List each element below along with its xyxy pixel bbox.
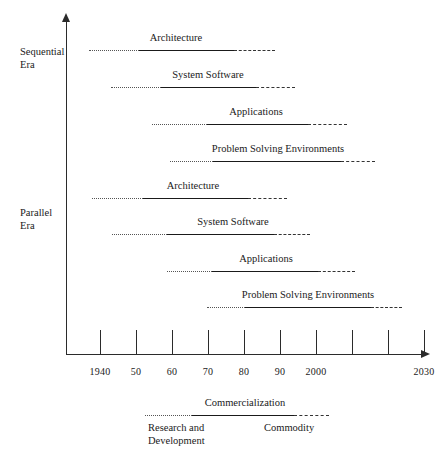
bar-segment-commodity xyxy=(248,198,287,199)
legend-caption-dotted: Research andDevelopment xyxy=(148,421,205,447)
timeline-bar: Problem Solving Environments xyxy=(0,143,444,169)
bar-label: Architecture xyxy=(150,32,202,43)
bar-segment-commercialization xyxy=(167,234,274,235)
x-axis-tick-label: 70 xyxy=(188,366,228,377)
bar-segment-research xyxy=(167,271,212,272)
bar-label: System Software xyxy=(172,69,243,80)
x-axis-tick-label: 2030 xyxy=(404,366,444,377)
bar-segment-commercialization xyxy=(143,198,248,199)
x-axis-tick-label: 50 xyxy=(116,366,156,377)
x-axis-tick xyxy=(280,330,281,355)
x-axis-arrow-icon xyxy=(421,350,430,358)
x-axis-tick xyxy=(136,330,137,355)
bar-segment-commercialization xyxy=(245,307,371,308)
bar-segment-research xyxy=(152,124,207,125)
x-axis-tick xyxy=(424,330,425,355)
bar-segment-research xyxy=(207,307,245,308)
bar-segment-commodity xyxy=(371,307,402,308)
timeline-bar: Applications xyxy=(0,106,444,132)
bar-segment-commodity xyxy=(308,124,347,125)
x-axis-line xyxy=(66,354,425,355)
bar-label: Applications xyxy=(239,253,293,264)
y-axis-arrow-icon xyxy=(62,13,70,22)
legend: CommercializationResearch andDevelopment… xyxy=(0,397,444,457)
timeline-bar: System Software xyxy=(0,69,444,95)
x-axis-tick xyxy=(388,330,389,355)
timeline-bar: Architecture xyxy=(0,32,444,58)
legend-segment-research xyxy=(145,415,192,416)
legend-title: Commercialization xyxy=(205,397,285,408)
bar-segment-research xyxy=(170,161,213,162)
bar-segment-research xyxy=(92,198,143,199)
x-axis-tick-label: 80 xyxy=(224,366,264,377)
bar-label: Problem Solving Environments xyxy=(242,289,374,300)
x-axis-tick-label: 90 xyxy=(260,366,300,377)
bar-segment-commodity xyxy=(341,161,375,162)
x-axis-tick xyxy=(208,330,209,355)
bar-label: Architecture xyxy=(167,180,219,191)
x-axis-tick xyxy=(316,330,317,355)
legend-caption-dashed: Commodity xyxy=(264,421,314,434)
legend-caption-line1: Commodity xyxy=(264,421,314,434)
timeline-bar: Architecture xyxy=(0,180,444,206)
x-axis-tick xyxy=(100,330,101,355)
x-axis-tick-label: 1940 xyxy=(80,366,120,377)
bar-segment-commodity xyxy=(318,271,355,272)
bar-segment-commodity xyxy=(274,234,310,235)
x-axis-tick-label: 2000 xyxy=(296,366,336,377)
legend-segment-commodity xyxy=(294,415,329,416)
bar-label: System Software xyxy=(197,216,268,227)
bar-segment-research xyxy=(112,234,167,235)
bar-segment-commercialization xyxy=(139,50,234,51)
bar-label: Problem Solving Environments xyxy=(212,143,344,154)
bar-segment-research xyxy=(89,50,139,51)
timeline-bar: System Software xyxy=(0,216,444,242)
bar-segment-commercialization xyxy=(161,87,256,88)
bar-segment-commercialization xyxy=(212,271,318,272)
bar-segment-commercialization xyxy=(213,161,341,162)
legend-segment-commercialization xyxy=(192,415,294,416)
bar-segment-commodity xyxy=(234,50,275,51)
timeline-bar: Problem Solving Environments xyxy=(0,289,444,315)
x-axis-tick xyxy=(244,330,245,355)
bar-segment-commodity xyxy=(256,87,295,88)
timeline-chart: 1940506070809020002030 Sequential Era Pa… xyxy=(0,0,444,463)
timeline-bar: Applications xyxy=(0,253,444,279)
legend-caption-line2: Development xyxy=(148,434,205,447)
x-axis-tick xyxy=(172,330,173,355)
x-axis-tick xyxy=(352,330,353,355)
x-axis-tick-label: 60 xyxy=(152,366,192,377)
legend-caption-line1: Research and xyxy=(148,421,205,434)
bar-label: Applications xyxy=(229,106,283,117)
bar-segment-commercialization xyxy=(207,124,308,125)
bar-segment-research xyxy=(111,87,161,88)
